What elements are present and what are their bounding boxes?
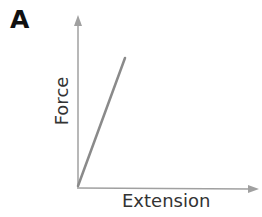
y-axis-label: Force bbox=[53, 77, 71, 126]
x-axis-label: Extension bbox=[122, 192, 210, 210]
force-extension-diagram bbox=[0, 0, 262, 217]
y-axis-arrow-icon bbox=[74, 15, 82, 26]
x-axis bbox=[77, 188, 251, 189]
force-extension-line bbox=[78, 58, 125, 186]
x-axis-arrow-icon bbox=[248, 185, 259, 193]
